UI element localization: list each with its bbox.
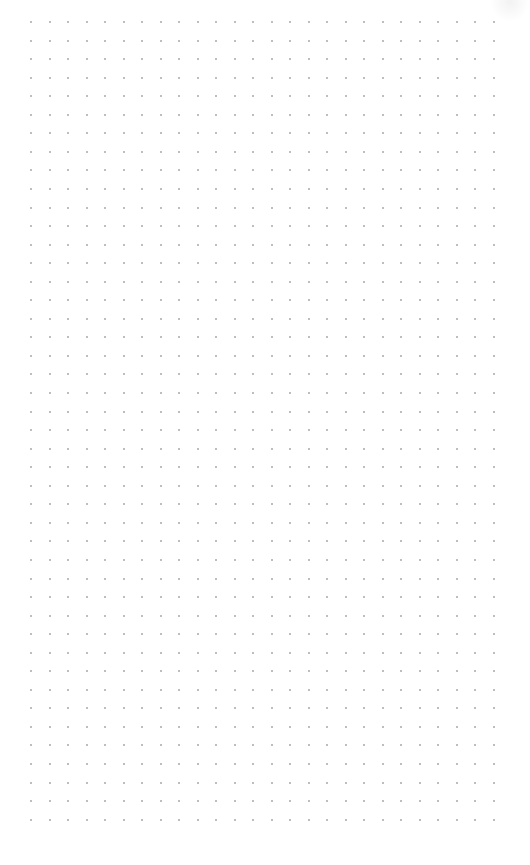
grid-dot: [197, 151, 199, 153]
grid-dot: [345, 670, 347, 672]
grid-dot: [86, 744, 88, 746]
grid-dot: [400, 95, 402, 97]
grid-dot: [141, 392, 143, 394]
grid-dot: [197, 188, 199, 190]
grid-dot: [437, 596, 439, 598]
grid-dot: [363, 652, 365, 654]
grid-dot: [474, 670, 476, 672]
grid-dot: [86, 132, 88, 134]
grid-dot: [86, 763, 88, 765]
grid-dot: [252, 466, 254, 468]
grid-dot: [400, 485, 402, 487]
grid-dot: [345, 392, 347, 394]
grid-dot: [49, 95, 51, 97]
grid-dot: [197, 782, 199, 784]
grid-dot: [104, 114, 106, 116]
grid-dot: [419, 169, 421, 171]
grid-dot: [456, 522, 458, 524]
grid-dot: [86, 355, 88, 357]
grid-dot: [86, 169, 88, 171]
grid-dot: [400, 689, 402, 691]
grid-dot: [197, 207, 199, 209]
grid-dot: [400, 77, 402, 79]
grid-dot: [215, 411, 217, 413]
grid-dot: [308, 225, 310, 227]
grid-dot: [400, 652, 402, 654]
grid-dot: [215, 652, 217, 654]
grid-dot: [382, 744, 384, 746]
grid-dot: [308, 670, 310, 672]
grid-dot: [215, 578, 217, 580]
grid-dot: [308, 559, 310, 561]
grid-dot: [308, 244, 310, 246]
grid-dot: [30, 670, 32, 672]
grid-dot: [141, 633, 143, 635]
grid-dot: [474, 448, 476, 450]
grid-dot: [456, 782, 458, 784]
grid-dot: [104, 652, 106, 654]
grid-dot: [178, 819, 180, 821]
grid-dot: [419, 466, 421, 468]
grid-dot: [30, 281, 32, 283]
grid-dot: [215, 429, 217, 431]
grid-dot: [308, 652, 310, 654]
grid-dot: [178, 244, 180, 246]
grid-dot: [382, 540, 384, 542]
grid-dot: [123, 40, 125, 42]
grid-dot: [234, 299, 236, 301]
grid-dot: [104, 132, 106, 134]
grid-dot: [271, 540, 273, 542]
grid-dot: [400, 373, 402, 375]
grid-dot: [197, 225, 199, 227]
grid-dot: [382, 466, 384, 468]
grid-dot: [308, 40, 310, 42]
grid-dot: [215, 726, 217, 728]
grid-dot: [326, 262, 328, 264]
grid-dot: [382, 429, 384, 431]
grid-dot: [86, 503, 88, 505]
grid-dot: [67, 244, 69, 246]
grid-dot: [178, 392, 180, 394]
grid-dot: [49, 262, 51, 264]
grid-dot: [308, 21, 310, 23]
grid-dot: [30, 188, 32, 190]
grid-dot: [141, 95, 143, 97]
grid-dot: [141, 151, 143, 153]
grid-dot: [400, 726, 402, 728]
grid-dot: [197, 800, 199, 802]
grid-dot: [30, 485, 32, 487]
grid-dot: [474, 392, 476, 394]
grid-dot: [160, 503, 162, 505]
grid-dot: [160, 670, 162, 672]
grid-dot: [86, 281, 88, 283]
grid-dot: [141, 225, 143, 227]
grid-dot: [123, 429, 125, 431]
grid-dot: [234, 726, 236, 728]
grid-dot: [363, 392, 365, 394]
grid-dot: [123, 132, 125, 134]
grid-dot: [123, 58, 125, 60]
grid-dot: [234, 689, 236, 691]
grid-dot: [67, 615, 69, 617]
grid-dot: [400, 169, 402, 171]
grid-dot: [400, 299, 402, 301]
grid-dot: [493, 169, 495, 171]
grid-dot: [493, 429, 495, 431]
grid-dot: [326, 336, 328, 338]
grid-dot: [160, 355, 162, 357]
grid-dot: [30, 225, 32, 227]
grid-dot: [160, 95, 162, 97]
grid-dot: [178, 522, 180, 524]
grid-dot: [382, 596, 384, 598]
grid-dot: [104, 559, 106, 561]
grid-dot: [437, 299, 439, 301]
grid-dot: [104, 411, 106, 413]
grid-dot: [252, 58, 254, 60]
grid-dot: [123, 225, 125, 227]
grid-dot: [271, 225, 273, 227]
grid-dot: [456, 744, 458, 746]
grid-dot: [271, 670, 273, 672]
grid-dot: [215, 188, 217, 190]
grid-dot: [160, 132, 162, 134]
